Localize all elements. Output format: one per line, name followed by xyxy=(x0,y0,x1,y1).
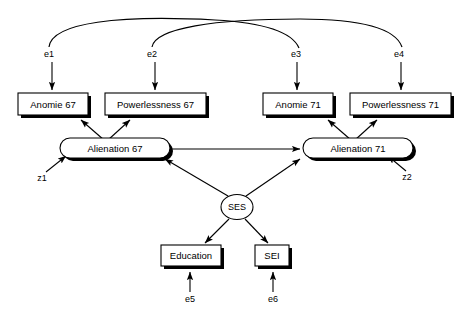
sem-path-diagram: Anomie 67 Powerlessness 67 Anomie 71 Pow… xyxy=(0,0,473,322)
node-alienation67[interactable]: Alienation 67 xyxy=(60,138,173,161)
correlation-curve-e2-e4 xyxy=(152,19,402,47)
node-powerlessness67[interactable]: Powerlessness 67 xyxy=(105,93,209,118)
arrow-ses-to-education xyxy=(205,219,229,243)
node-anomie71[interactable]: Anomie 71 xyxy=(263,93,336,118)
arrow-alienation67-to-powerlessness67 xyxy=(108,120,130,140)
arrow-alienation71-to-powerlessness71 xyxy=(355,120,377,140)
anomie67-label: Anomie 67 xyxy=(30,99,75,110)
disturbance-labels: z1 z2 xyxy=(37,172,412,183)
node-sei[interactable]: SEI xyxy=(255,245,292,269)
diagram-canvas: Anomie 67 Powerlessness 67 Anomie 71 Pow… xyxy=(0,0,473,322)
ses-label: SES xyxy=(228,202,246,212)
error-label-e3: e3 xyxy=(291,49,301,59)
error-arrows-top xyxy=(52,62,401,90)
node-education[interactable]: Education xyxy=(161,245,224,269)
arrow-ses-to-alienation67 xyxy=(165,159,228,196)
anomie71-label: Anomie 71 xyxy=(275,99,320,110)
node-ses[interactable]: SES xyxy=(221,195,253,220)
error-label-e4: e4 xyxy=(394,49,404,59)
arrow-ses-to-alienation71 xyxy=(246,159,300,196)
disturbance-label-z2: z2 xyxy=(402,172,412,182)
loading-arrows-top xyxy=(81,120,377,140)
alienation71-label: Alienation 71 xyxy=(331,143,386,154)
powerlessness71-label: Powerlessness 71 xyxy=(362,99,439,110)
correlation-curve-e1-e3 xyxy=(49,18,299,48)
arrow-z1-to-alienation67 xyxy=(46,156,66,172)
alienation67-label: Alienation 67 xyxy=(88,143,143,154)
sei-label: SEI xyxy=(264,250,279,261)
error-label-e6: e6 xyxy=(268,294,278,304)
education-label: Education xyxy=(170,250,212,261)
correlated-error-curves xyxy=(49,18,402,48)
node-powerlessness71[interactable]: Powerlessness 71 xyxy=(350,93,454,118)
error-label-e2: e2 xyxy=(147,49,157,59)
error-arrows-bottom xyxy=(190,272,273,292)
arrow-ses-to-sei xyxy=(245,219,268,243)
error-label-e1: e1 xyxy=(44,49,54,59)
error-label-e5: e5 xyxy=(185,294,195,304)
disturbance-label-z1: z1 xyxy=(37,173,47,183)
ses-loading-arrows xyxy=(205,219,268,243)
arrow-alienation67-to-anomie67 xyxy=(81,120,104,140)
node-alienation71[interactable]: Alienation 71 xyxy=(303,138,416,161)
ses-structural-arrows xyxy=(165,159,300,196)
powerlessness67-label: Powerlessness 67 xyxy=(117,99,194,110)
arrow-alienation71-to-anomie71 xyxy=(328,120,351,140)
node-anomie67[interactable]: Anomie 67 xyxy=(18,93,91,118)
